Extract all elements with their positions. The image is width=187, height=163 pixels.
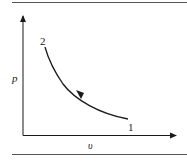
y-axis-label: p (11, 72, 18, 84)
pv-diagram: p υ 2 1 (0, 0, 187, 163)
process-curve (45, 47, 128, 119)
point-1-label: 1 (128, 121, 134, 133)
x-axis-label: υ (88, 140, 93, 151)
point-2-label: 2 (40, 35, 46, 47)
